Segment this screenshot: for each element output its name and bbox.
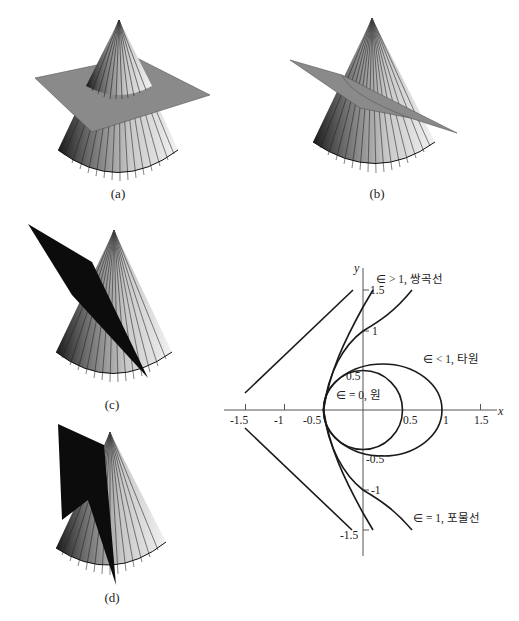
y-tick-label: 0.5	[346, 370, 361, 382]
parabola-curve	[324, 290, 413, 530]
cone-parallel-plane-illustration	[0, 210, 200, 420]
x-tick-label: 0.5	[403, 414, 418, 426]
circle-label: ∈ = 0, 원	[336, 388, 381, 402]
axes	[224, 268, 497, 556]
cone-tilted-plane-illustration	[260, 0, 519, 210]
hyperbola-asymptote-line	[245, 290, 353, 393]
y-tick-label: -1.5	[340, 529, 358, 541]
figure-b: (b)	[260, 0, 519, 210]
caption-c: (c)	[92, 397, 132, 413]
x-tick-label: -1	[274, 414, 284, 426]
x-tick-label: -0.5	[303, 414, 321, 426]
circle-curve	[324, 371, 403, 450]
ellipse-label: ∈ < 1, 타원	[423, 352, 479, 366]
y-tick-label: 1	[372, 325, 378, 337]
hyperbola-curve	[324, 290, 374, 530]
figure-a: (a)	[0, 0, 260, 210]
ellipse-curve	[324, 364, 443, 456]
y-axis-label: y	[353, 261, 360, 275]
x-tick-label: 1.5	[474, 414, 489, 426]
caption-d: (d)	[92, 590, 132, 606]
hyperbola-label: ∈ > 1, 쌍곡선	[376, 273, 443, 286]
y-tick-label: 1.5	[370, 284, 385, 296]
parabola-label: ∈ = 1, 포물선	[413, 512, 480, 525]
caption-b: (b)	[357, 186, 397, 202]
y-tick-label: -0.5	[366, 453, 384, 465]
figure-c: (c)	[0, 210, 200, 420]
figure-d: (d)	[0, 420, 200, 621]
caption-a: (a)	[98, 186, 138, 202]
y-tick-label: -1	[371, 484, 381, 496]
hyperbola-asymptote-line	[245, 428, 352, 530]
x-tick-label: 1	[443, 414, 449, 426]
x-axis-label: x	[497, 404, 504, 418]
cone-horizontal-plane-illustration	[0, 0, 260, 210]
x-tick-label: -1.5	[230, 414, 248, 426]
